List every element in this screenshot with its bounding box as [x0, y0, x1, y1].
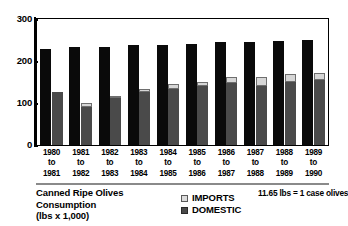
bar-segment-imports: [226, 77, 237, 83]
bar-total: [215, 42, 226, 145]
legend-item-imports: IMPORTS: [181, 187, 241, 199]
y-axis-ticks: 0100200300: [0, 0, 32, 146]
y-tick-label: 200: [4, 56, 32, 65]
chart-legend: IMPORTS DOMESTIC: [181, 187, 241, 211]
bar-stacked: [314, 73, 325, 145]
legend-label-domestic: DOMESTIC: [192, 204, 241, 215]
bar-group: [302, 19, 325, 145]
x-axis-label: 1984to1985: [153, 148, 182, 179]
x-axis-label-line: 1987: [212, 169, 241, 179]
bar-stacked: [110, 96, 121, 145]
x-axis-label-line: 1983: [95, 169, 124, 179]
bar-segment-imports: [139, 89, 150, 92]
bar-group: [273, 19, 296, 145]
x-axis-label-line: 1983: [124, 148, 153, 158]
bar-stacked: [256, 77, 267, 145]
x-axis-label: 1985to1986: [183, 148, 212, 179]
x-axis-label-line: 1985: [183, 148, 212, 158]
bar-segment-imports: [314, 73, 325, 80]
bar-total: [302, 40, 313, 145]
x-axis-label-line: 1988: [241, 169, 270, 179]
x-axis-label-line: 1982: [66, 169, 95, 179]
x-axis-label-line: 1989: [270, 169, 299, 179]
x-axis-label-line: 1984: [153, 148, 182, 158]
x-axis-label: 1983to1984: [124, 148, 153, 179]
x-axis-label-line: to: [95, 158, 124, 168]
y-tick-label: 300: [4, 14, 32, 23]
x-axis-label-line: 1989: [299, 148, 328, 158]
bar-segment-imports: [110, 96, 121, 98]
conversion-note: 11.65 lbs = 1 case olives: [258, 188, 348, 198]
x-axis-label-line: 1984: [124, 169, 153, 179]
bar-segment-imports: [81, 103, 92, 107]
bar-segment-domestic: [285, 82, 296, 145]
bar-group: [69, 19, 92, 145]
x-axis-label-line: to: [66, 158, 95, 168]
bar-stacked: [81, 103, 92, 145]
x-axis-labels: 1980to19811981to19821982to19831983to1984…: [37, 148, 328, 180]
x-axis-label-line: to: [212, 158, 241, 168]
bar-group: [157, 19, 180, 145]
legend-item-domestic: DOMESTIC: [181, 199, 241, 211]
bar-total: [244, 42, 255, 145]
domestic-swatch-icon: [181, 207, 188, 214]
x-axis-label: 1989to1990: [299, 148, 328, 179]
bar-stacked: [168, 84, 179, 145]
x-axis-label: 1988to1989: [270, 148, 299, 179]
x-axis-label-line: 1986: [183, 169, 212, 179]
bar-stacked: [197, 82, 208, 145]
caption-line-3: (lbs x 1,000): [36, 210, 123, 222]
bar-series-area: [37, 19, 328, 145]
bar-segment-domestic: [139, 92, 150, 145]
x-axis-label-line: 1988: [270, 148, 299, 158]
x-axis-label: 1982to1983: [95, 148, 124, 179]
chart-footer: Canned Ripe Olives Consumption (lbs x 1,…: [36, 187, 336, 225]
bar-segment-imports: [197, 82, 208, 86]
bar-total: [69, 47, 80, 145]
bar-segment-imports: [168, 84, 179, 89]
x-axis-label: 1986to1987: [212, 148, 241, 179]
bar-segment-domestic: [52, 92, 63, 145]
footer-divider: [36, 183, 329, 185]
bar-total: [273, 41, 284, 145]
bar-segment-domestic: [314, 80, 325, 145]
bar-group: [186, 19, 209, 145]
x-axis-label-line: 1985: [153, 169, 182, 179]
bar-total: [157, 45, 168, 145]
bar-stacked: [52, 92, 63, 145]
bar-group: [128, 19, 151, 145]
bar-segment-imports: [256, 77, 267, 86]
y-tick-mark: [34, 145, 38, 147]
x-axis-label-line: 1981: [37, 169, 66, 179]
x-axis-label-line: 1982: [95, 148, 124, 158]
x-axis-label-line: to: [183, 158, 212, 168]
x-axis-label-line: 1981: [66, 148, 95, 158]
bar-group: [40, 19, 63, 145]
bar-group: [99, 19, 122, 145]
x-axis-label: 1980to1981: [37, 148, 66, 179]
chart-caption: Canned Ripe Olives Consumption (lbs x 1,…: [36, 187, 123, 222]
x-axis-label-line: to: [124, 158, 153, 168]
caption-line-1: Canned Ripe Olives: [36, 187, 123, 199]
x-axis-label-line: to: [37, 158, 66, 168]
bar-segment-domestic: [256, 86, 267, 145]
bar-segment-domestic: [110, 98, 121, 145]
bar-stacked: [285, 74, 296, 145]
bar-segment-domestic: [226, 83, 237, 145]
bar-total: [128, 45, 139, 145]
y-tick-label: 100: [4, 98, 32, 107]
bar-segment-imports: [285, 74, 296, 82]
x-axis-label: 1987to1988: [241, 148, 270, 179]
x-axis-label-line: to: [153, 158, 182, 168]
x-axis-label: 1981to1982: [66, 148, 95, 179]
bar-stacked: [226, 77, 237, 145]
caption-line-2: Consumption: [36, 199, 123, 211]
x-axis-label-line: 1986: [212, 148, 241, 158]
bar-stacked: [139, 89, 150, 145]
x-axis-label-line: to: [241, 158, 270, 168]
bar-total: [186, 44, 197, 145]
x-axis-label-line: 1990: [299, 169, 328, 179]
bar-segment-domestic: [197, 86, 208, 145]
bar-segment-domestic: [168, 89, 179, 145]
